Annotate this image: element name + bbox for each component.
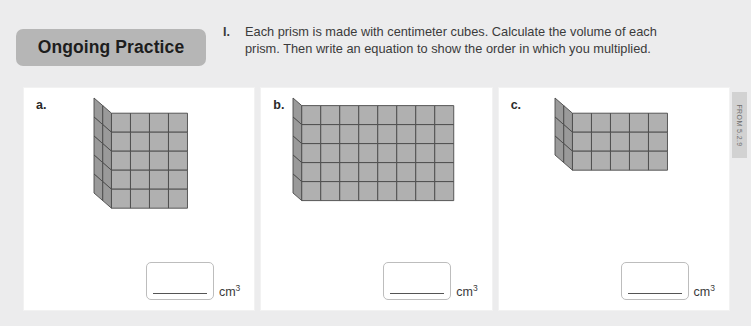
answer-row-a: cm3 xyxy=(146,262,240,300)
source-reference-label: FROM 5.2.9 xyxy=(736,104,743,146)
answer-write-line-a xyxy=(153,293,207,294)
answer-row-b: cm3 xyxy=(383,262,477,300)
answer-input-b[interactable] xyxy=(383,262,451,300)
answer-input-c[interactable] xyxy=(621,262,689,300)
answer-write-line-b xyxy=(390,293,444,294)
panel-part-a: a. cm3 xyxy=(24,88,254,310)
unit-label-b: cm3 xyxy=(456,283,477,299)
prism-figure-a xyxy=(24,96,254,211)
problem-number: I. xyxy=(223,24,245,41)
source-reference-tab: FROM 5.2.9 xyxy=(732,92,747,158)
ongoing-practice-badge: Ongoing Practice xyxy=(16,29,206,66)
problem-prompt: I. Each prism is made with centimeter cu… xyxy=(223,24,693,57)
problem-panels: a. cm3 b. cm3 c. xyxy=(24,88,729,310)
prism-svg-b xyxy=(292,96,467,211)
answer-write-line-c xyxy=(628,293,682,294)
ongoing-practice-label: Ongoing Practice xyxy=(38,37,185,58)
problem-instructions: Each prism is made with centimeter cubes… xyxy=(245,24,682,57)
panel-part-b: b. cm3 xyxy=(261,88,491,310)
answer-row-c: cm3 xyxy=(621,262,715,300)
unit-label-c: cm3 xyxy=(694,283,715,299)
worksheet-header: Ongoing Practice I. Each prism is made w… xyxy=(0,0,751,84)
prism-svg-c xyxy=(554,96,684,211)
prism-figure-b xyxy=(261,96,491,211)
unit-label-a: cm3 xyxy=(219,283,240,299)
prism-figure-c xyxy=(499,96,729,211)
answer-input-a[interactable] xyxy=(146,262,214,300)
panel-part-c: c. cm3 xyxy=(499,88,729,310)
prism-svg-a xyxy=(93,96,198,211)
